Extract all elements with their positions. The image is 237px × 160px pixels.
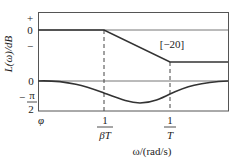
phase-zero-label: 0 xyxy=(28,75,34,87)
phase-two-label: 2 xyxy=(28,103,34,115)
phase-curve xyxy=(38,81,228,103)
magnitude-curve xyxy=(38,30,228,62)
phase-pi-label: π xyxy=(29,89,35,101)
slope-annotation: [−20] xyxy=(160,38,185,50)
x-tick-1-denominator: βT xyxy=(98,129,111,141)
bode-diagram: + 0 − L(ω)/dB 0 − π 2 φ [−20] 1 βT 1 T ω… xyxy=(0,0,237,160)
x-tick-2-denominator: T xyxy=(167,129,174,141)
magnitude-plus-label: + xyxy=(27,12,33,24)
phase-minus-label: − xyxy=(19,91,25,103)
x-tick-2-numerator: 1 xyxy=(167,114,173,126)
x-tick-1-numerator: 1 xyxy=(102,114,108,126)
magnitude-zero-label: 0 xyxy=(27,24,33,36)
frequency-axis-label: ω/(rad/s) xyxy=(132,145,171,158)
magnitude-axis-label: L(ω)/dB xyxy=(2,35,15,73)
phase-axis-label: φ xyxy=(38,114,44,126)
magnitude-minus-label: − xyxy=(27,40,33,52)
